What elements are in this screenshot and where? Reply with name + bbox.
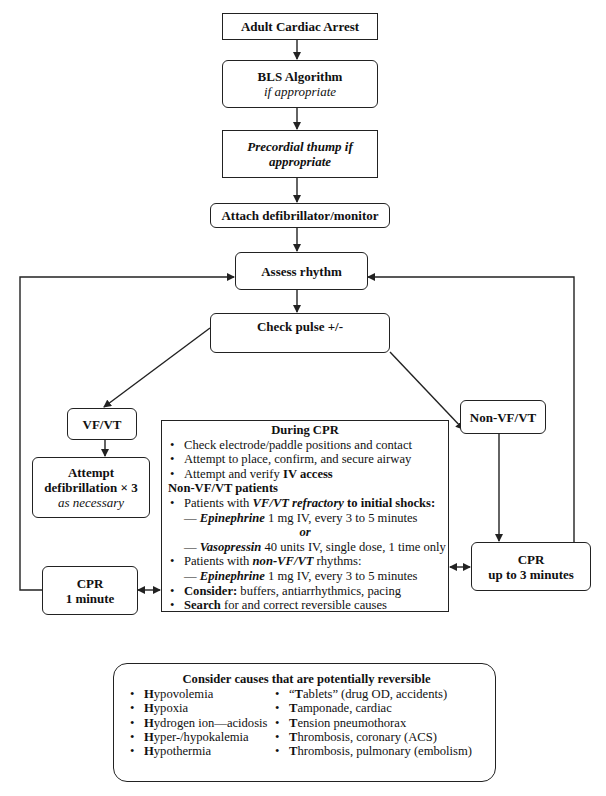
- cause-hypovolemia: •Hypovolemia: [128, 687, 273, 701]
- attempt-defibrillation-box: Attempt defibrillation × 3 as necessary: [32, 457, 150, 518]
- bls-subtitle: if appropriate: [264, 84, 336, 99]
- cause-tablets: •“Tablets” (drug OD, accidents): [273, 687, 485, 701]
- during-cpr-title: During CPR: [168, 423, 442, 438]
- during-item-iv: •Attempt and verify IV access: [168, 467, 442, 482]
- cpr3-line2: up to 3 minutes: [488, 567, 574, 582]
- during-item-airway: •Attempt to place, confirm, and secure a…: [168, 452, 442, 467]
- assess-label: Assess rhythm: [261, 264, 342, 279]
- cause-hypoxia: •Hypoxia: [128, 701, 273, 715]
- during-item-consider: •Consider: buffers, antiarrhythmics, pac…: [168, 584, 442, 599]
- defib-line1: Attempt: [68, 465, 114, 480]
- during-item-refractory: •Patients with VF/VT refractory to initi…: [168, 496, 442, 511]
- vfvt-label: VF/VT: [83, 417, 122, 432]
- adult-cardiac-arrest-box: Adult Cardiac Arrest: [222, 13, 378, 40]
- cause-hyper-hypokalemia: •Hyper-/hypokalemia: [128, 730, 273, 744]
- precordial-line2: appropriate: [269, 154, 331, 169]
- precordial-thump-box: Precordial thump if appropriate: [222, 130, 378, 178]
- nonvfvt-label: Non-VF/VT: [470, 410, 536, 425]
- cpr1-line2: 1 minute: [66, 591, 115, 606]
- during-item-search: •Search for and correct reversible cause…: [168, 598, 442, 613]
- cause-tamponade: •Tamponade, cardiac: [273, 701, 485, 715]
- vfvt-box: VF/VT: [67, 408, 137, 440]
- cause-thrombosis-coronary: •Thrombosis, coronary (ACS): [273, 730, 485, 744]
- defib-line3: as necessary: [58, 495, 124, 510]
- t-causes-list: •“Tablets” (drug OD, accidents) •Tampona…: [273, 687, 485, 758]
- cause-hydrogen-ion: •Hydrogen ion—acidosis: [128, 716, 273, 730]
- cpr1-line1: CPR: [77, 576, 104, 591]
- precordial-line1: Precordial thump if: [247, 139, 352, 154]
- during-section-nonvfvt: Non-VF/VT patients: [168, 481, 442, 496]
- reversible-causes-title: Consider causes that are potentially rev…: [128, 672, 485, 686]
- cpr-1-minute-box: CPR 1 minute: [42, 566, 138, 615]
- assess-rhythm-box: Assess rhythm: [235, 252, 368, 290]
- during-or: or: [168, 525, 442, 540]
- defib-line2: defibrillation × 3: [44, 480, 137, 495]
- attach-defibrillator-box: Attach defibrillator/monitor: [210, 203, 390, 228]
- cpr3-line1: CPR: [518, 552, 545, 567]
- cause-hypothermia: •Hypothermia: [128, 744, 273, 758]
- adult-cardiac-arrest-label: Adult Cardiac Arrest: [241, 19, 359, 34]
- non-vfvt-box: Non-VF/VT: [460, 400, 546, 434]
- cause-thrombosis-pulmonary: •Thrombosis, pulmonary (embolism): [273, 744, 485, 758]
- attach-label: Attach defibrillator/monitor: [221, 208, 378, 223]
- during-epinephrine-1: — Epinephrine 1 mg IV, every 3 to 5 minu…: [168, 511, 442, 526]
- check-pulse-box: Check pulse +/-: [210, 313, 390, 353]
- reversible-causes-box: Consider causes that are potentially rev…: [113, 663, 496, 782]
- during-vasopressin: — Vasopressin 40 units IV, single dose, …: [168, 540, 442, 555]
- cpr-3-minutes-box: CPR up to 3 minutes: [471, 542, 591, 591]
- during-epinephrine-2: — Epinephrine 1 mg IV, every 3 to 5 minu…: [168, 569, 442, 584]
- check-pulse-label: Check pulse +/-: [257, 319, 343, 334]
- h-causes-list: •Hypovolemia •Hypoxia •Hydrogen ion—acid…: [128, 687, 273, 758]
- during-cpr-box: During CPR •Check electrode/paddle posit…: [161, 420, 449, 612]
- bls-title: BLS Algorithm: [258, 69, 343, 84]
- during-item-electrode: •Check electrode/paddle positions and co…: [168, 438, 442, 453]
- cause-tension-pneumothorax: •Tension pneumothorax: [273, 716, 485, 730]
- during-item-nonvfvt: •Patients with non-VF/VT rhythms:: [168, 554, 442, 569]
- bls-algorithm-box: BLS Algorithm if appropriate: [222, 60, 378, 108]
